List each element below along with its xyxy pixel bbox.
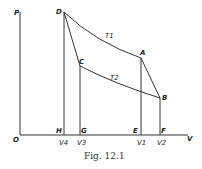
point-H-label: H	[56, 127, 62, 135]
point-D-label: D	[56, 8, 62, 16]
adiabat-DC	[64, 12, 80, 66]
curve-T1-label: T1	[105, 32, 114, 40]
origin-label: O	[13, 136, 19, 144]
tick-V4-label: V4	[59, 139, 68, 147]
point-E-label: E	[133, 127, 138, 135]
p-axis-label: P	[14, 9, 20, 17]
point-F-label: F	[161, 127, 166, 135]
point-G-label: G	[81, 127, 87, 135]
point-C-label: C	[79, 58, 85, 66]
tick-V3-label: V3	[77, 139, 86, 147]
point-B-label: B	[162, 94, 167, 102]
adiabat-AB	[141, 58, 160, 98]
point-A-label: A	[139, 49, 145, 57]
tick-V2-label: V2	[157, 139, 167, 147]
v-axis-label: V	[187, 135, 193, 143]
figure-caption: Fig. 12.1	[84, 151, 125, 161]
carnot-cycle-diagram: P O V D A C B T1 T2 H G E F V4 V3 V1 V2 …	[0, 0, 202, 169]
curve-T2-label: T2	[110, 74, 119, 82]
tick-V1-label: V1	[137, 139, 146, 147]
isotherm-T2	[80, 66, 160, 98]
